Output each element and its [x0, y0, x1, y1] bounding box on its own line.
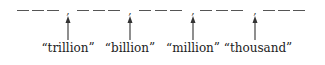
- up-arrow-icon: [189, 16, 197, 40]
- digit-placeholder-dash: [17, 10, 29, 11]
- comma-separator-billion: ,: [128, 5, 132, 16]
- up-arrow-icon: [64, 16, 72, 40]
- digit-placeholder-dash: [32, 10, 44, 11]
- comma-separator-trillion: ,: [66, 5, 70, 16]
- digit-placeholder-dash: [108, 10, 120, 11]
- comma-separator-thousand: ,: [253, 5, 257, 16]
- digit-placeholder-dash: [200, 10, 212, 11]
- comma-separator-million: ,: [191, 5, 195, 16]
- digit-placeholder-dash: [93, 10, 105, 11]
- digit-placeholder-dash: [155, 10, 167, 11]
- number-grouping-diagram: , , , , “trillion” “billion” “million” “…: [0, 0, 325, 65]
- up-arrow-icon: [251, 16, 259, 40]
- digit-placeholder-dash: [278, 10, 290, 11]
- label-trillion: “trillion”: [41, 41, 94, 55]
- digit-placeholder-dash: [293, 10, 305, 11]
- digit-placeholder-dash: [231, 10, 243, 11]
- digit-placeholder-dash: [216, 10, 228, 11]
- label-billion: “billion”: [105, 41, 155, 55]
- up-arrow-icon: [126, 16, 134, 40]
- digit-placeholder-dash: [263, 10, 275, 11]
- digit-placeholder-dash: [139, 10, 151, 11]
- label-million: “million”: [166, 41, 220, 55]
- digit-placeholder-dash: [77, 10, 89, 11]
- digit-placeholder-dash: [170, 10, 182, 11]
- digit-placeholder-dash: [47, 10, 59, 11]
- label-thousand: “thousand”: [224, 41, 293, 55]
